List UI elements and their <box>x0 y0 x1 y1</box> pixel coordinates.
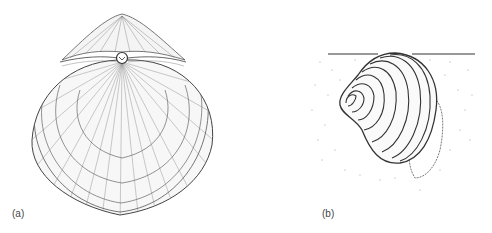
panel-b-shell-illustration: (b) <box>300 0 492 233</box>
panel-a-shell-illustration: (a) <box>0 0 250 233</box>
shell-a-drawing <box>0 0 250 233</box>
panel-a-label: (a) <box>12 208 24 219</box>
shell-b-drawing <box>300 0 492 233</box>
panel-b-label: (b) <box>322 208 334 219</box>
